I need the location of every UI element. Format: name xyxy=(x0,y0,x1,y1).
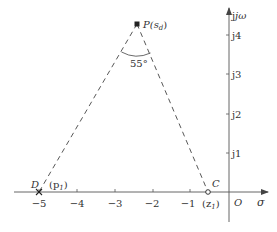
line-PC xyxy=(137,24,208,192)
point-D-label: D xyxy=(30,179,39,190)
point-C-label: C xyxy=(212,178,220,189)
tick-label-minus1: −1 xyxy=(181,198,196,209)
pole-p1-label: (p1) xyxy=(49,179,68,192)
point-P-marker xyxy=(135,22,140,27)
angle-arc xyxy=(122,52,151,56)
angle-label: 55° xyxy=(130,58,148,69)
origin-label: O xyxy=(234,197,242,208)
tick-label-minus5: −5 xyxy=(32,198,47,209)
tick-label-j2: j2 xyxy=(231,109,241,120)
tick-label-j3: j3 xyxy=(231,69,241,80)
line-PD xyxy=(39,24,137,192)
zero-z1-label: (z1) xyxy=(202,198,220,211)
jomega-axis-label: jjω xyxy=(231,10,246,21)
s-plane-diagram: −5 −4 −3 −2 −1 j1 j2 j3 j4 jjω σ O 55° P… xyxy=(0,0,277,232)
diagram-canvas: −5 −4 −3 −2 −1 j1 j2 j3 j4 jjω σ O 55° P… xyxy=(0,0,277,232)
point-P-label: P(sd) xyxy=(142,19,167,32)
tick-label-j1: j1 xyxy=(231,148,241,159)
tick-label-minus3: −3 xyxy=(108,198,123,209)
tick-label-minus4: −4 xyxy=(70,198,85,209)
sigma-axis-label: σ xyxy=(257,196,265,209)
tick-label-minus2: −2 xyxy=(145,198,160,209)
tick-label-j4: j4 xyxy=(231,30,241,41)
zero-z1-marker xyxy=(206,190,211,195)
